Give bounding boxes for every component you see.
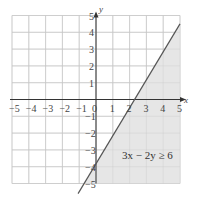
inequality-graph: −5−4−3−2−101234554321−1−2−3−4−5 x y 3x −… xyxy=(0,0,197,197)
y-axis-label: y xyxy=(98,4,103,14)
svg-text:−5: −5 xyxy=(9,103,20,114)
svg-text:−3: −3 xyxy=(43,103,54,114)
svg-text:1: 1 xyxy=(89,78,94,89)
svg-text:5: 5 xyxy=(177,103,182,114)
svg-text:−3: −3 xyxy=(85,145,96,156)
x-axis-label: x xyxy=(183,95,188,105)
svg-text:2: 2 xyxy=(89,61,94,72)
svg-text:−2: −2 xyxy=(85,128,96,139)
inequality-label: 3x − 2y ≥ 6 xyxy=(122,149,173,161)
svg-text:−4: −4 xyxy=(85,162,96,173)
svg-text:−4: −4 xyxy=(26,103,37,114)
y-axis-arrow-icon xyxy=(94,12,99,18)
svg-text:−5: −5 xyxy=(85,179,96,190)
svg-text:1: 1 xyxy=(110,103,115,114)
svg-text:3: 3 xyxy=(143,103,148,114)
svg-text:−1: −1 xyxy=(85,111,96,122)
svg-text:5: 5 xyxy=(89,11,94,22)
svg-text:2: 2 xyxy=(127,103,132,114)
svg-text:−2: −2 xyxy=(59,103,70,114)
svg-text:4: 4 xyxy=(160,103,165,114)
svg-text:4: 4 xyxy=(89,27,94,38)
svg-text:3: 3 xyxy=(89,44,94,55)
